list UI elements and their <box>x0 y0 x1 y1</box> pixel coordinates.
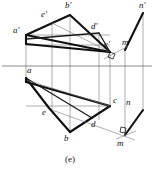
front-edge-a-d <box>26 33 99 39</box>
label-b: b <box>64 133 69 143</box>
right-angle-front <box>108 52 115 59</box>
label-e-prime: e′ <box>41 9 48 19</box>
top-edge-a-e-b <box>26 78 70 132</box>
label-b-prime: b′ <box>65 0 73 10</box>
label-a: a <box>27 65 32 75</box>
top-edge-d-c <box>92 106 110 118</box>
label-m: m <box>117 138 124 148</box>
label-d: d <box>91 119 96 129</box>
label-c: c <box>113 95 117 105</box>
label-d-prime: d′ <box>91 21 99 31</box>
top-view-polygon <box>26 78 110 132</box>
front-edge-a-e <box>26 23 52 35</box>
label-a-prime: a′ <box>13 25 21 35</box>
label-n: n <box>126 97 131 107</box>
label-n-prime: n′ <box>139 0 147 10</box>
label-c-prime: c′ <box>104 39 111 49</box>
label-m-prime: m′ <box>122 37 131 47</box>
projector-lines <box>26 13 143 137</box>
geometry-figure: a′ b′ c′ d′ e′ m′ n′ a b c d e m n (e) <box>0 0 155 171</box>
label-e: e <box>42 107 46 117</box>
top-segment-m-n <box>125 110 143 135</box>
front-edge-e-b <box>52 15 70 23</box>
figure-caption: (e) <box>65 154 75 164</box>
projection-drawing: a′ b′ c′ d′ e′ m′ n′ a b c d e m n (e) <box>0 0 155 171</box>
